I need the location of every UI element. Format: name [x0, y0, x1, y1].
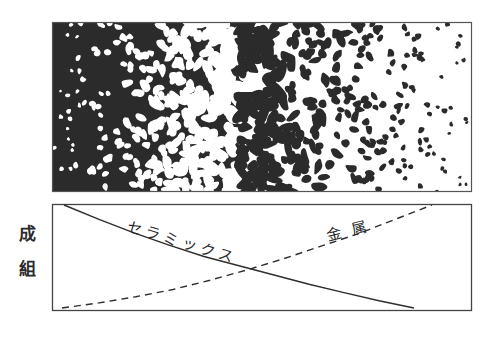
composition-axis-label: 成 組: [16, 226, 38, 296]
metal-composition-curve: [62, 205, 432, 308]
axis-label-char-2: 成: [16, 226, 38, 243]
composition-panel: [0, 0, 491, 342]
axis-label-char-1: 組: [16, 261, 38, 278]
fgm-diagram: 成 組 セラミックス 金 属: [0, 0, 491, 342]
composition-frame: [53, 205, 472, 311]
